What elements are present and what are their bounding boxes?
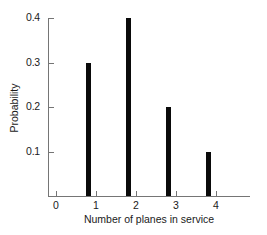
probability-bar-chart-figure: 0.4 0.3 0.2 0.1 0 1 2 3 4 Number of plan… [0,0,267,235]
y-tick-mark-0.1 [49,152,54,153]
x-tick-label-2: 2 [127,199,145,211]
y-tick-mark-0.2 [49,107,54,108]
x-tick-label-3: 3 [167,199,185,211]
y-axis-title: Probability [8,68,20,148]
y-tick-mark-0.3 [49,63,54,64]
x-tick-mark-0 [56,191,57,196]
x-tick-label-1: 1 [87,199,105,211]
x-tick-mark-1 [96,191,97,196]
bar-2 [126,18,131,196]
y-tick-mark-0.4 [49,18,54,19]
plot-area: 0.4 0.3 0.2 0.1 0 1 2 3 4 Number of plan… [0,0,267,235]
y-tick-label-0.3: 0.3 [14,57,40,68]
x-tick-label-0: 0 [47,199,65,211]
bar-4 [206,152,211,197]
x-axis-line [48,196,250,197]
bar-1 [86,63,91,197]
x-tick-mark-4 [216,191,217,196]
x-tick-label-4: 4 [207,199,225,211]
x-tick-mark-2 [136,191,137,196]
y-tick-label-0.4: 0.4 [14,12,40,23]
x-axis-title: Number of planes in service [48,213,250,226]
x-tick-mark-3 [176,191,177,196]
bar-3 [166,107,171,196]
